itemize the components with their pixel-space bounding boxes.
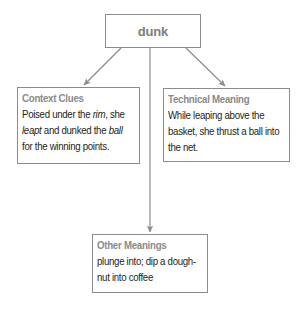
body-line: the net. [168, 139, 274, 155]
word-map-diagram: dunk Context Clues Poised under the rim,… [0, 0, 308, 310]
body-line: While leaping above the [168, 107, 274, 123]
root-word-label: dunk [138, 24, 168, 39]
italic-text-run: leapt [22, 124, 41, 136]
text-run: Poised under the [22, 108, 93, 120]
body-line: leapt and dunked the ball [22, 122, 125, 138]
technical-meaning-node: Technical Meaning While leaping above th… [163, 88, 290, 162]
text-run: , she [105, 108, 124, 120]
root-word-node: dunk [105, 14, 201, 48]
node-title: Technical Meaning [168, 92, 274, 107]
italic-text-run: rim [93, 108, 106, 120]
body-line: for the winning points. [22, 138, 125, 154]
body-line: basket, she thrust a ball into [168, 123, 274, 139]
node-body: While leaping above the basket, she thru… [168, 107, 274, 155]
text-run: for the winning points. [22, 140, 109, 152]
text-run: and dunked the [41, 124, 108, 136]
context-clues-node: Context Clues Poised under the rim, she … [17, 87, 140, 164]
other-meanings-node: Other Meanings plunge into; dip a dough-… [92, 234, 208, 293]
body-line: plunge into; dip a dough- [97, 253, 194, 269]
body-line: Poised under the rim, she [22, 106, 125, 122]
node-title: Other Meanings [97, 238, 194, 253]
body-line: nut into coffee [97, 269, 194, 285]
node-body: Poised under the rim, she leapt and dunk… [22, 106, 125, 154]
node-title: Context Clues [22, 91, 125, 106]
arrow-to-context-clues [84, 48, 121, 85]
italic-text-run: ball [109, 124, 123, 136]
node-body: plunge into; dip a dough- nut into coffe… [97, 253, 194, 285]
arrow-to-technical-meaning [186, 48, 225, 86]
